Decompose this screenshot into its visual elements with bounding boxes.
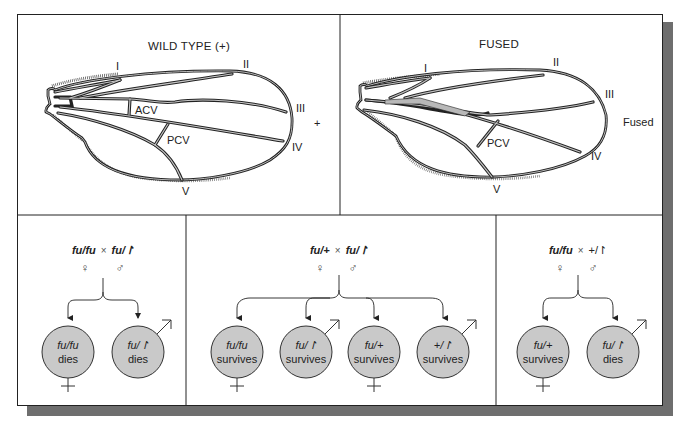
cross-3-female-genotype: fu/fu <box>549 244 573 256</box>
offspring-genotype: fu/↾ <box>295 339 316 351</box>
cross-3-times: × <box>578 245 584 256</box>
cross-3-female-symbol: ♀ <box>556 261 565 275</box>
cross-2-offspring-2: fu/↾ survives <box>280 338 332 366</box>
offspring-genotype: fu/↾ <box>602 339 623 351</box>
offspring-outcome: dies <box>603 353 623 365</box>
offspring-outcome: survives <box>423 353 463 365</box>
cross-1-male-genotype: fu/↾ <box>112 244 134 256</box>
wild-type-wing <box>46 71 292 181</box>
cross-3-male-symbol: ♂ <box>589 261 598 275</box>
fused-vein-v: V <box>493 183 500 195</box>
wild-type-vein-ii: II <box>243 58 249 70</box>
offspring-outcome: survives <box>217 353 257 365</box>
cross-2-offspring-1: fu/fu survives <box>211 338 263 366</box>
offspring-genotype: fu/↾ <box>127 339 148 351</box>
offspring-outcome: survives <box>354 353 394 365</box>
offspring-outcome: dies <box>128 353 148 365</box>
offspring-outcome: survives <box>286 353 326 365</box>
cross-2-female-symbol: ♀ <box>316 261 325 275</box>
offspring-outcome: survives <box>523 353 563 365</box>
cross-2-male-symbol: ♂ <box>349 261 358 275</box>
cross-1-times: × <box>101 245 107 256</box>
cross-1-offspring-1: fu/fu dies <box>42 338 94 366</box>
fused-title: FUSED <box>479 38 519 50</box>
fused-vein-i: I <box>424 62 427 74</box>
wild-type-vein-iv: IV <box>292 141 302 153</box>
fused-pcv-label: PCV <box>487 137 510 149</box>
cross-1-tree <box>68 278 138 318</box>
cross-3-parents: fu/fu×+/↾ <box>549 244 607 257</box>
cross-3-offspring-2: fu/↾ dies <box>587 338 639 366</box>
fused-side-label: Fused <box>623 116 654 128</box>
fused-vein-iv: IV <box>591 150 601 162</box>
cross-1-female-symbol: ♀ <box>81 261 90 275</box>
cross-1-female-genotype: fu/fu <box>72 244 96 256</box>
fused-vein-iii: III <box>605 88 614 100</box>
offspring-genotype: fu/+ <box>365 339 384 351</box>
wild-type-title: WILD TYPE (+) <box>148 40 230 52</box>
wild-type-vein-v: V <box>182 185 189 197</box>
wild-type-acv-label: ACV <box>135 104 158 116</box>
wild-type-vein-iii: III <box>296 102 305 114</box>
offspring-genotype: fu/fu <box>57 339 78 351</box>
cross-1-parents: fu/fu×fu/↾ <box>72 244 134 257</box>
offspring-genotype: +/↾ <box>434 339 452 351</box>
cross-2-offspring-3: fu/+ survives <box>348 338 400 366</box>
wild-type-vein-i: I <box>116 60 119 72</box>
cross-2-offspring-4: +/↾ survives <box>417 338 469 366</box>
fused-wing <box>357 70 607 179</box>
fused-vein-ii: II <box>553 56 559 68</box>
cross-3-male-genotype: +/↾ <box>589 244 607 256</box>
offspring-genotype: fu/fu <box>226 339 247 351</box>
diagram-canvas <box>0 0 683 436</box>
cross-2-parents: fu/+×fu/↾ <box>310 244 368 257</box>
cross-2-tree <box>237 275 443 318</box>
wild-type-side-label: + <box>314 117 320 129</box>
cross-2-female-genotype: fu/+ <box>310 244 330 256</box>
cross-1-offspring-2: fu/↾ dies <box>112 338 164 366</box>
offspring-outcome: dies <box>58 353 78 365</box>
offspring-genotype: fu/+ <box>534 339 553 351</box>
wild-type-pcv-label: PCV <box>167 134 190 146</box>
cross-3-tree <box>543 275 613 318</box>
cross-2-male-genotype: fu/↾ <box>346 244 368 256</box>
cross-2-times: × <box>335 245 341 256</box>
cross-3-offspring-1: fu/+ survives <box>517 338 569 366</box>
cross-1-male-symbol: ♂ <box>116 261 125 275</box>
